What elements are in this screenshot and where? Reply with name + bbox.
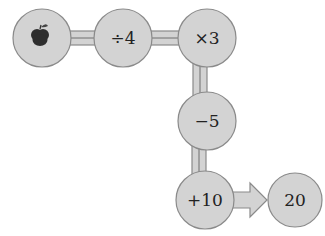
node-op1: ÷4 bbox=[94, 9, 152, 67]
node-op4: +10 bbox=[176, 171, 234, 229]
node-start bbox=[13, 9, 71, 67]
node-op3-label: −5 bbox=[194, 111, 219, 131]
node-result-label: 20 bbox=[284, 190, 306, 210]
node-result: 20 bbox=[268, 173, 322, 227]
node-op1-label: ÷4 bbox=[110, 28, 135, 48]
node-op2-label: ×3 bbox=[194, 28, 219, 48]
node-op4-label: +10 bbox=[187, 190, 223, 210]
node-op2: ×3 bbox=[178, 9, 236, 67]
node-op3: −5 bbox=[178, 92, 236, 150]
flow-diagram: ÷4 ×3 −5 +10 20 bbox=[0, 0, 325, 236]
